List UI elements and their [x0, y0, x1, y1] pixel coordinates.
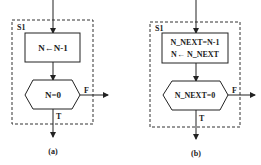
process-text-line-2: N← N_NEXT [171, 50, 219, 59]
group-label: S1 [155, 24, 163, 33]
decision-text: N_NEXT=0 [175, 91, 216, 100]
false-label: F [232, 86, 237, 95]
process-text: N←N-1 [38, 43, 68, 53]
decision-text: N=0 [45, 90, 62, 100]
caption: (a) [48, 147, 58, 156]
caption: (b) [191, 149, 201, 158]
false-label: F [84, 86, 89, 95]
diagram-a: S1 N←N-1 N=0 F T (a) [12, 0, 108, 156]
flowchart-canvas: S1 N←N-1 N=0 F T (a) S1 N_NEXT=N-1 N← N_… [0, 0, 261, 165]
true-label: T [199, 114, 205, 123]
process-text-line-1: N_NEXT=N-1 [170, 38, 219, 47]
diagram-b: S1 N_NEXT=N-1 N← N_NEXT N_NEXT=0 F T (b) [150, 0, 255, 158]
true-label: T [56, 112, 62, 121]
group-label: S1 [17, 23, 25, 32]
